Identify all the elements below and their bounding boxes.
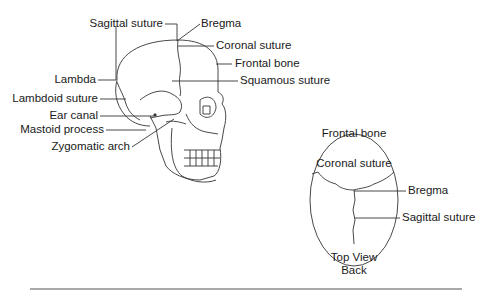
label-top-sagittal-suture: Sagittal suture <box>402 211 476 224</box>
label-top-bregma: Bregma <box>408 184 448 197</box>
caption-back: Back <box>314 264 394 277</box>
label-ear-canal: Ear canal <box>0 109 98 122</box>
label-lambdoid-suture: Lambdoid suture <box>0 92 98 105</box>
side-skull-drawing <box>116 40 226 182</box>
label-lambda: Lambda <box>0 73 96 86</box>
label-top-frontal-bone: Frontal bone <box>314 127 394 140</box>
label-sagittal-suture: Sagittal suture <box>50 17 163 30</box>
label-mastoid-process: Mastoid process <box>0 123 104 136</box>
label-bregma: Bregma <box>201 17 241 30</box>
top-skull-drawing <box>310 134 398 266</box>
label-top-coronal-suture: Coronal suture <box>314 157 394 170</box>
label-frontal-bone: Frontal bone <box>235 57 300 70</box>
label-zygomatic-arch: Zygomatic arch <box>0 140 130 153</box>
label-squamous-suture: Squamous suture <box>240 74 330 87</box>
caption-top-view: Top View <box>314 251 394 264</box>
label-coronal-suture: Coronal suture <box>216 39 291 52</box>
